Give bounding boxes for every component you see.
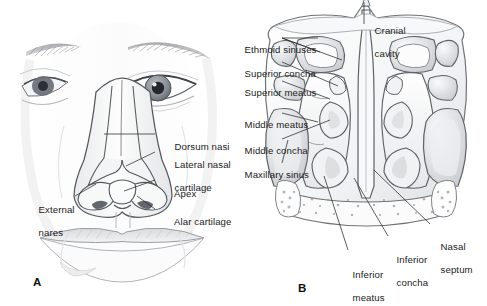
- label-cranial-cavity-line2: cavity: [375, 48, 400, 59]
- panel-b-letter: B: [298, 282, 306, 294]
- label-inferior-meatus-line1: Inferior: [353, 269, 384, 280]
- label-alar-cartilage-line1: Alar cartilage: [174, 216, 231, 227]
- label-cranial-cavity: Cranial cavity: [358, 14, 406, 71]
- label-superior-meatus-line1: Superior meatus: [245, 87, 317, 98]
- label-nasal-septum: Nasal septum: [424, 230, 473, 287]
- label-external-nares-line2: nares: [39, 227, 64, 238]
- label-inferior-concha: Inferior concha: [380, 243, 428, 300]
- label-apex-line1: Apex: [174, 188, 196, 199]
- label-middle-concha-line1: Middle concha: [245, 145, 308, 156]
- label-alar-cartilage: Alar cartilage: [158, 205, 231, 239]
- maxillary-sinus-right: [423, 109, 466, 187]
- label-superior-meatus: Superior meatus: [228, 76, 316, 110]
- anatomy-figure: Dorsum nasi Lateral nasal cartilage Apex…: [0, 0, 487, 306]
- label-cranial-cavity-line1: Cranial: [375, 25, 406, 36]
- label-external-nares-line1: External: [39, 204, 75, 215]
- label-lateral-nasal-cartilage-line1: Lateral nasal: [175, 159, 231, 170]
- panel-a-external-nose: Dorsum nasi Lateral nasal cartilage Apex…: [0, 0, 244, 306]
- panel-a-letter: A: [33, 276, 41, 288]
- label-maxillary-sinus-line1: Maxillary sinus: [245, 169, 309, 180]
- label-inferior-concha-line1: Inferior: [397, 254, 428, 265]
- label-external-nares: External nares: [22, 193, 75, 250]
- label-middle-meatus-line1: Middle meatus: [245, 119, 309, 130]
- panel-b-coronal-section: Ethmoid sinuses Superior concha Superior…: [244, 0, 487, 306]
- label-nasal-septum-line1: Nasal: [441, 241, 466, 252]
- label-nasal-septum-line2: septum: [441, 264, 473, 275]
- label-inferior-meatus: Inferior meatus: [336, 258, 385, 306]
- label-ethmoid-sinuses-line1: Ethmoid sinuses: [245, 44, 317, 55]
- label-maxillary-sinus: Maxillary sinus: [228, 158, 309, 192]
